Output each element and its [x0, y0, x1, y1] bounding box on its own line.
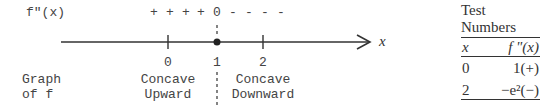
table-row: 2 −e²(−): [461, 81, 540, 100]
header-x: x: [462, 38, 469, 56]
region-upward-line1: Concave: [141, 72, 196, 87]
sign-2: +: [166, 5, 174, 20]
header-fxx: f "(x): [508, 38, 539, 56]
sign-1: +: [150, 5, 158, 20]
tick-label-2: 2: [259, 55, 267, 70]
derivative-row-label: f"(x): [26, 5, 65, 20]
sign-3: +: [182, 5, 190, 20]
table-title: Test Numbers: [461, 2, 540, 36]
graph-label-line1: Graph: [22, 72, 61, 87]
cell-x: 0: [462, 59, 470, 77]
region-downward-line2: Downward: [232, 87, 294, 102]
region-downward-line1: Concave: [236, 72, 291, 87]
test-numbers-table: Test Numbers x f "(x) 0 1(+) 2 −e²(−): [461, 2, 540, 100]
table-header-row: x f "(x): [461, 37, 540, 57]
sign-6: -: [245, 5, 253, 20]
axis-label-x: x: [379, 33, 386, 50]
cell-x: 2: [462, 81, 470, 99]
tick-label-1: 1: [213, 55, 221, 70]
sign-8: -: [277, 5, 285, 20]
table-row: 0 1(+): [461, 59, 540, 77]
sign-zero: 0: [213, 5, 221, 20]
region-upward-line2: Upward: [145, 87, 192, 102]
inflection-point-dot: [214, 39, 221, 46]
graph-label-line2: of f: [22, 87, 53, 102]
cell-value: 1(+): [513, 59, 539, 77]
sign-7: -: [261, 5, 269, 20]
sign-4: +: [197, 5, 205, 20]
sign-5: -: [229, 5, 237, 20]
tick-label-0: 0: [164, 55, 172, 70]
cell-value: −e²(−): [501, 81, 539, 99]
